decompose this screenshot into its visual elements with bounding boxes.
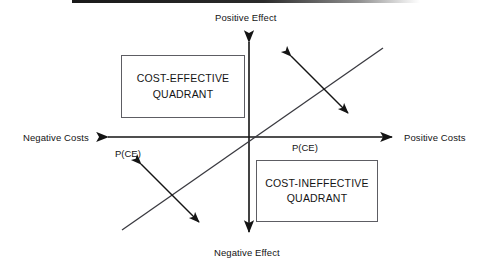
uncertainty-arrow-upper-right — [291, 56, 348, 113]
pce-label-upper-right: P(CE) — [292, 142, 318, 153]
axis-label-negative-costs: Negative Costs — [23, 132, 89, 143]
axis-label-positive-costs: Positive Costs — [404, 132, 466, 143]
quadrant-box-cost-effective-line2: QUADRANT — [153, 87, 214, 102]
axis-label-negative-effect: Negative Effect — [214, 247, 280, 258]
diagram-canvas: Positive Effect Negative Effect Negative… — [0, 0, 494, 270]
quadrant-box-cost-effective: COST-EFFECTIVE QUADRANT — [121, 55, 245, 118]
quadrant-box-cost-ineffective-line1: COST-INEFFECTIVE — [265, 176, 369, 191]
quadrant-box-cost-effective-line1: COST-EFFECTIVE — [137, 71, 230, 86]
pce-label-lower-left: P(CE) — [115, 148, 141, 159]
quadrant-box-cost-ineffective: COST-INEFFECTIVE QUADRANT — [256, 160, 378, 222]
quadrant-box-cost-ineffective-line2: QUADRANT — [287, 191, 348, 206]
uncertainty-arrow-lower-left — [141, 164, 199, 222]
axis-label-positive-effect: Positive Effect — [215, 12, 277, 23]
